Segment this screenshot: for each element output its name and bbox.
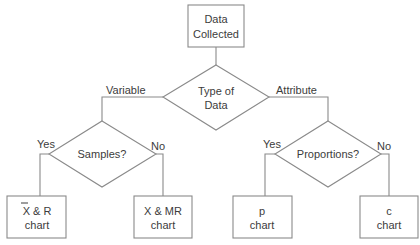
type-label-line1: Type of (198, 85, 235, 97)
node-p-chart: p chart (233, 196, 292, 238)
p-chart-box (233, 196, 292, 238)
p-chart-line2: chart (250, 219, 274, 231)
proportions-label: Proportions? (297, 148, 359, 160)
xbar-r-box (7, 196, 66, 238)
edge-variable (102, 97, 163, 121)
p-chart-line1: p (259, 205, 265, 217)
edge-attribute (269, 97, 328, 121)
edge-label-variable: Variable (106, 84, 146, 96)
c-chart-box (360, 196, 418, 238)
node-c-chart: c chart (360, 196, 418, 238)
start-box (188, 5, 244, 47)
edge-label-proportions-no: No (377, 140, 391, 152)
start-label-line2: Collected (193, 28, 239, 40)
xbar-r-line1: X & R (23, 205, 52, 217)
edge-samples-yes (40, 154, 49, 196)
edge-proportions-yes (265, 154, 275, 196)
type-label-line2: Data (204, 99, 228, 111)
node-x-mr-chart: X & MR chart (134, 196, 192, 238)
edge-label-samples-yes: Yes (37, 138, 55, 150)
node-samples: Samples? (49, 121, 156, 187)
edge-label-attribute: Attribute (276, 84, 317, 96)
x-mr-line2: chart (151, 219, 175, 231)
xbar-r-line2: chart (25, 219, 49, 231)
node-type-of-data: Type of Data (163, 65, 269, 130)
edge-samples-no (156, 154, 163, 196)
node-xbar-r-chart: X & R chart (7, 196, 66, 238)
edge-label-samples-no: No (151, 140, 165, 152)
c-chart-line1: c (386, 205, 392, 217)
node-data-collected: Data Collected (188, 5, 244, 47)
node-proportions: Proportions? (275, 121, 381, 187)
samples-label: Samples? (78, 148, 127, 160)
x-mr-box (134, 196, 192, 238)
start-label-line1: Data (204, 13, 228, 25)
x-mr-line1: X & MR (144, 205, 182, 217)
edge-proportions-no (381, 154, 389, 196)
type-decision-diamond (163, 65, 269, 130)
edge-label-proportions-yes: Yes (263, 138, 281, 150)
quality-chart-selection-flowchart: Data Collected Type of Data Variable Att… (0, 0, 420, 245)
c-chart-line2: chart (377, 219, 401, 231)
